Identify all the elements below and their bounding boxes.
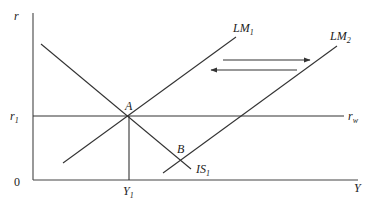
rw-label: rw [348, 109, 359, 125]
lm2-curve-label: LM2 [329, 29, 351, 45]
lm2-curve [163, 46, 337, 173]
y-axis-label: r [14, 9, 19, 23]
is-curve [41, 44, 191, 169]
lm1-curve [63, 37, 236, 163]
x-axis-label: Y [354, 181, 362, 195]
y1-label: Y1 [123, 184, 134, 200]
is-curve-label: IS1 [195, 162, 210, 178]
point-b-label: B [177, 142, 185, 156]
r1-label: r1 [10, 109, 19, 125]
point-a-label: A [124, 99, 133, 113]
lm1-curve-label: LM1 [232, 21, 254, 37]
origin-label: 0 [14, 175, 20, 189]
is-lm-diagram: r 0 Y r1 rw Y1 A B IS1 LM1 LM2 [0, 0, 373, 205]
